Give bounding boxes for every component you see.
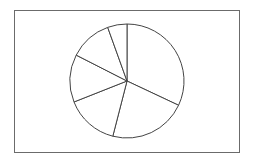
pie-chart bbox=[0, 0, 257, 163]
